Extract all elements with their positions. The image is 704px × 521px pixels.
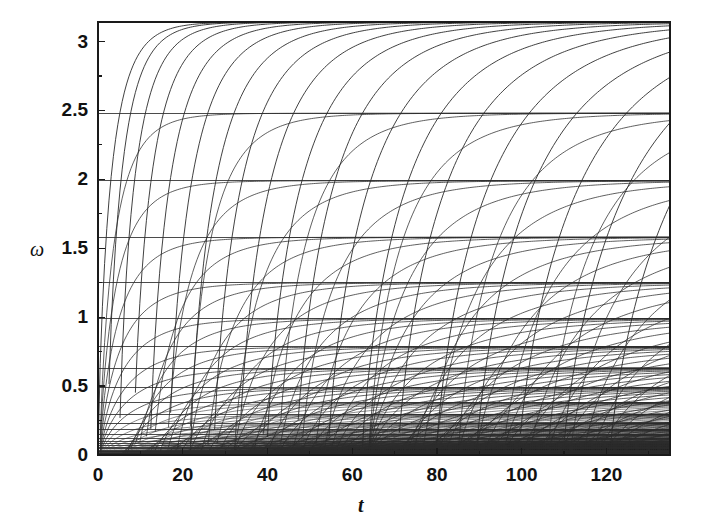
x-tick-label: 20 <box>172 465 193 484</box>
y-tick-label: 2 <box>77 169 88 188</box>
y-axis-label: ω <box>30 239 44 259</box>
curve-branch-17 <box>520 77 670 433</box>
y-tick-label: 2.5 <box>62 100 88 119</box>
y-tick-label: 0.5 <box>62 376 88 395</box>
x-axis-label: t <box>358 495 364 515</box>
x-tick-label: 120 <box>591 465 623 484</box>
y-tick-label: 1.5 <box>62 238 88 257</box>
curve-branch-level-2-3 <box>303 181 670 437</box>
curve-branch-3 <box>120 22 670 418</box>
chart-plot-area <box>0 0 704 521</box>
x-tick-label: 60 <box>342 465 363 484</box>
y-tick-label: 3 <box>77 32 88 51</box>
curve-branch-level-1-4 <box>459 121 670 444</box>
x-tick-label: 80 <box>426 465 447 484</box>
curve-branch-level-3-4 <box>316 238 670 445</box>
y-tick-label: 1 <box>77 307 88 326</box>
figure-root: 00.511.522.53 020406080100120 ω t <box>0 0 704 521</box>
curve-family <box>98 22 670 455</box>
x-tick-label: 40 <box>257 465 278 484</box>
curve-branch-5 <box>151 22 670 429</box>
x-tick-label: 100 <box>506 465 538 484</box>
y-tick-label: 0 <box>77 445 88 464</box>
curve-branch-2 <box>109 22 670 384</box>
curve-branch-level-1-0 <box>100 113 670 434</box>
x-tick-label: 0 <box>93 465 104 484</box>
